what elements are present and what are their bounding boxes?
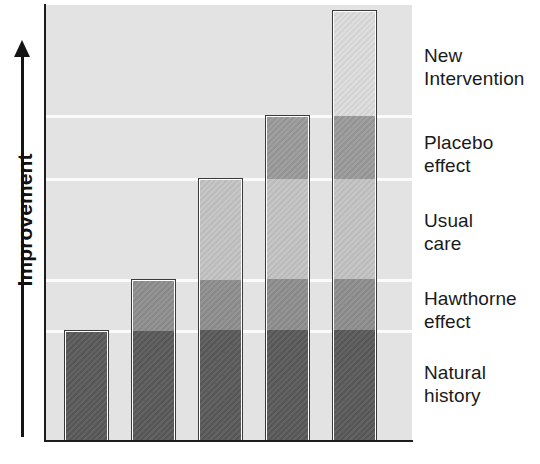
bar-4-stack [267, 117, 308, 440]
bar-1[interactable] [64, 330, 109, 441]
plot-area [45, 5, 412, 441]
bar-5-stack [334, 12, 375, 440]
segment-usual-care [267, 179, 308, 279]
legend-label-placebo-effect: Placebo effect [424, 131, 493, 177]
y-axis-line [44, 4, 46, 442]
x-axis-line [44, 440, 413, 442]
chart-root: Improvement New InterventionPlacebo effe… [0, 0, 540, 464]
segment-usual-care [200, 180, 241, 280]
legend-label-new-intervention: New Intervention [424, 44, 525, 90]
bar-5[interactable] [332, 10, 377, 441]
legend-label-natural-history: Natural history [424, 361, 486, 407]
segment-hawthorne-effect [200, 280, 241, 330]
bar-2[interactable] [131, 279, 176, 441]
bar-3[interactable] [198, 178, 243, 441]
segment-natural-history [133, 331, 174, 440]
legend-label-hawthorne-effect: Hawthorne effect [424, 287, 517, 333]
segment-usual-care [334, 179, 375, 279]
segment-natural-history [267, 330, 308, 440]
y-axis-title: Improvement [13, 120, 37, 320]
segment-natural-history [200, 330, 241, 440]
segment-new-intervention [334, 12, 375, 116]
segment-hawthorne-effect [334, 279, 375, 330]
legend-label-usual-care: Usual care [424, 209, 473, 255]
bar-1-stack [66, 332, 107, 440]
segment-placebo-effect [267, 117, 308, 179]
y-axis-label-group: Improvement [0, 0, 44, 464]
segment-placebo-effect [334, 116, 375, 179]
bar-2-stack [133, 281, 174, 440]
legend-labels: New InterventionPlacebo effectUsual care… [424, 0, 540, 464]
bar-3-stack [200, 180, 241, 440]
segment-hawthorne-effect [133, 281, 174, 331]
segment-hawthorne-effect [267, 279, 308, 330]
segment-natural-history [334, 330, 375, 440]
segment-natural-history [66, 332, 107, 440]
bar-4[interactable] [265, 115, 310, 441]
